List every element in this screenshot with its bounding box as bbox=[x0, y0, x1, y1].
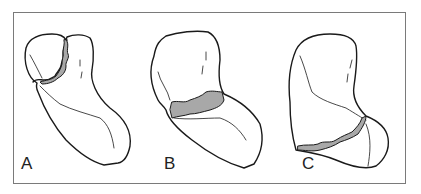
panel-label-c: C bbox=[302, 154, 314, 174]
panel-a-bone bbox=[25, 34, 130, 165]
panel-label-a: A bbox=[21, 154, 32, 174]
bone-illustrations bbox=[0, 0, 421, 194]
panel-label-b: B bbox=[164, 154, 175, 174]
panel-a-fracture bbox=[40, 40, 68, 84]
panel-c-fracture bbox=[298, 116, 366, 151]
panel-b-fracture bbox=[170, 91, 224, 118]
